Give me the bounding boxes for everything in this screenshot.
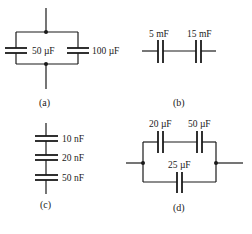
circuit-b: 5 mF 15 mF (b) [142, 29, 216, 109]
node-dot [141, 161, 145, 165]
panel-caption: (d) [173, 202, 185, 214]
capacitor-label: 10 nF [62, 134, 84, 144]
circuit-d: 20 µF 50 µF 25 µF (d) [126, 119, 243, 214]
capacitor-label: 5 mF [149, 29, 169, 39]
panel-caption: (c) [40, 199, 51, 211]
capacitor-label: 20 µF [149, 119, 172, 129]
capacitor-label: 20 nF [62, 153, 84, 163]
capacitor-label: 50 µF [32, 46, 55, 56]
panel-caption: (a) [39, 97, 50, 109]
node-dot [214, 161, 218, 165]
capacitor-label: 15 mF [187, 29, 212, 39]
capacitor-circuits-figure: 50 µF 100 µF (a) 5 mF 15 mF (b) [0, 0, 252, 234]
capacitor-label: 100 µF [92, 46, 119, 56]
node-dot [44, 30, 48, 34]
node-dot [44, 62, 48, 66]
circuit-a: 50 µF 100 µF (a) [5, 8, 119, 109]
circuit-c: 10 nF 20 nF 50 nF (c) [35, 123, 84, 211]
capacitor-label: 50 nF [62, 173, 84, 183]
capacitor-label: 25 µF [168, 160, 191, 170]
panel-caption: (b) [173, 97, 185, 109]
capacitor-label: 50 µF [188, 119, 211, 129]
